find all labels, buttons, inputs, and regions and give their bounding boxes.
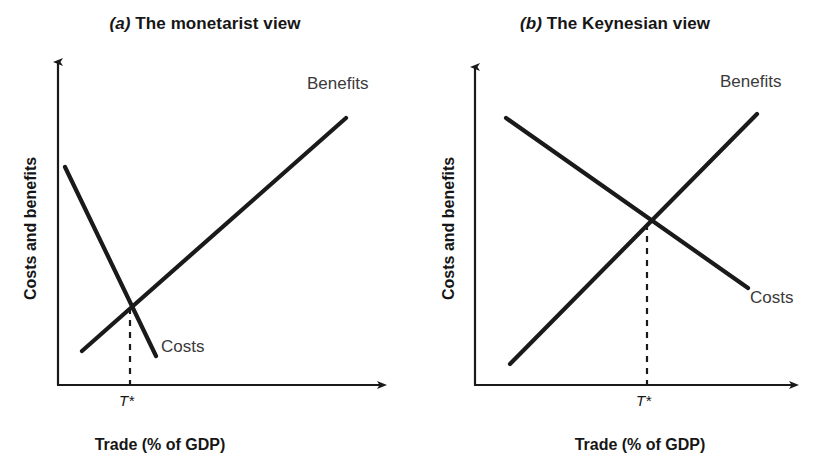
panel-b-benefits-label: Benefits xyxy=(720,72,781,92)
panel-a-plot xyxy=(0,0,410,470)
panel-a-benefits-curve xyxy=(82,118,346,351)
panel-a-tstar-tick-label: T* xyxy=(119,392,134,409)
panel-a-costs-label: Costs xyxy=(161,337,204,357)
figure-container: (a) The monetarist view Costs and benefi… xyxy=(0,0,820,470)
panel-monetarist-view: (a) The monetarist view Costs and benefi… xyxy=(0,0,410,470)
panel-a-benefits-label: Benefits xyxy=(307,74,368,94)
panel-b-costs-curve xyxy=(506,118,748,288)
panel-b-tstar-tick-label: T* xyxy=(636,392,651,409)
panel-b-benefits-curve xyxy=(510,114,757,364)
panel-b-costs-label: Costs xyxy=(750,288,793,308)
panel-keynesian-view: (b) The Keynesian view Costs and benefit… xyxy=(410,0,820,470)
panel-b-plot xyxy=(410,0,820,470)
